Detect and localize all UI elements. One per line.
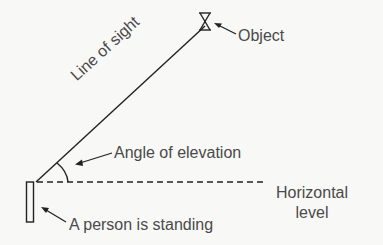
person-rectangle-icon — [27, 182, 34, 222]
angle-of-elevation-label: Angle of elevation — [114, 145, 241, 161]
person-pointer-arrow — [41, 207, 66, 222]
horizontal-level-label: Horizontal level — [276, 183, 348, 223]
horizontal-label-line1: Horizontal — [276, 183, 348, 203]
hourglass-icon — [199, 13, 211, 30]
object-label: Object — [238, 28, 284, 44]
horizontal-label-line2: level — [276, 203, 348, 223]
object-pointer-arrow — [214, 23, 236, 34]
angle-of-elevation-diagram: Line of sight Object Angle of elevation … — [0, 0, 383, 245]
angle-pointer-arrow — [75, 153, 112, 166]
angle-arc — [57, 163, 68, 182]
person-standing-label: A person is standing — [69, 217, 213, 233]
